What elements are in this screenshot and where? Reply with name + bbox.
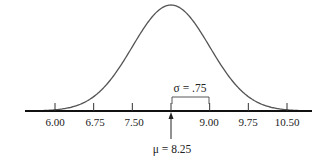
mean-label: μ = 8.25 <box>153 143 192 156</box>
sigma-bracket <box>172 97 209 104</box>
tick-label-10-50: 10.50 <box>275 116 300 128</box>
mean-arrow-head-icon <box>169 112 174 119</box>
tick-label-7-50: 7.50 <box>124 116 144 128</box>
tick-label-6-75: 6.75 <box>85 116 105 128</box>
tick-label-9-75: 9.75 <box>238 116 258 128</box>
normal-distribution-chart: 6.00 6.75 7.50 9.00 9.75 10.50 σ = .75 μ… <box>0 0 328 162</box>
normal-curve <box>32 5 310 111</box>
tick-label-9-00: 9.00 <box>199 116 219 128</box>
x-axis-ticks <box>55 103 287 111</box>
tick-label-6-00: 6.00 <box>45 116 65 128</box>
sigma-label: σ = .75 <box>174 82 207 94</box>
